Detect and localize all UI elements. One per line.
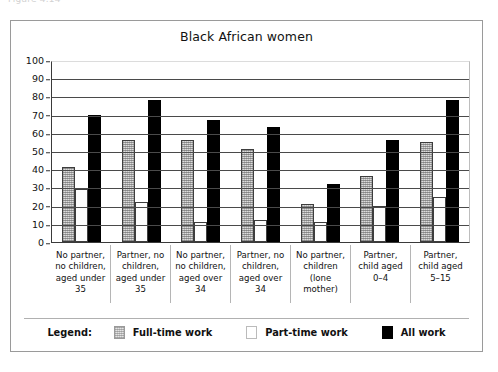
x-axis-category-label-line: aged over: [232, 273, 289, 284]
legend-swatch-all-work: [382, 326, 393, 339]
legend-label-all-work: All work: [401, 327, 446, 338]
x-axis-category-label-line: 34: [232, 284, 289, 295]
y-axis-tick-60: 60: [32, 129, 44, 139]
legend-item-all-work: All work: [382, 326, 446, 339]
legend-divider: [24, 318, 469, 319]
y-axis-tick-30: 30: [32, 184, 44, 194]
bar-part[interactable]: [254, 220, 267, 242]
x-axis-category-label: Partner,child aged0–4: [350, 245, 410, 303]
bar-part[interactable]: [373, 206, 386, 242]
x-axis-category-label-line: children: [292, 261, 349, 272]
y-axis-tick-20: 20: [32, 202, 44, 212]
legend-item-full-time: Full-time work: [114, 326, 212, 339]
legend-item-part-time: Part-time work: [246, 326, 348, 339]
x-axis-category-label-line: no children,: [52, 261, 109, 272]
x-axis-category-label-line: children,: [112, 261, 169, 272]
y-axis-tick-80: 80: [32, 93, 44, 103]
chart-title: Black African women: [11, 29, 482, 44]
x-axis-category-label-line: 35: [112, 284, 169, 295]
x-axis-category-label-line: child aged: [352, 261, 409, 272]
bar-full[interactable]: [181, 140, 194, 242]
y-axis-tick-100: 100: [26, 56, 44, 66]
bar-part[interactable]: [75, 189, 88, 242]
x-axis-category-label-line: No partner,: [172, 250, 229, 261]
gridline-40: [52, 170, 469, 171]
x-axis-category-label-line: children,: [232, 261, 289, 272]
figure-caption-fragment: Figure 4.14: [8, 0, 61, 4]
x-axis-category-label-line: no children,: [172, 261, 229, 272]
gridline-90: [52, 79, 469, 80]
gridline-50: [52, 152, 469, 153]
gridline-100: [52, 61, 469, 62]
legend-swatch-part-time: [246, 326, 257, 339]
x-axis-category-label: No partner,no children,aged under35: [51, 245, 110, 303]
bar-full[interactable]: [360, 176, 373, 242]
plot-area: [51, 61, 470, 243]
y-axis-tick-0: 0: [38, 238, 44, 248]
x-axis-category-label-line: Partner, no: [232, 250, 289, 261]
legend-swatch-full-time: [114, 326, 125, 339]
bar-all[interactable]: [207, 120, 220, 242]
x-axis-category-label-line: 34: [172, 284, 229, 295]
x-axis-category-label-line: 35: [52, 284, 109, 295]
x-axis-category-label-line: No partner,: [292, 250, 349, 261]
bar-all[interactable]: [327, 184, 340, 242]
bar-part[interactable]: [135, 202, 148, 242]
x-axis-category-label-line: mother): [292, 284, 349, 295]
bar-full[interactable]: [241, 149, 254, 242]
bar-full[interactable]: [420, 142, 433, 242]
x-axis-category-label-line: aged under: [52, 273, 109, 284]
y-axis: 0102030405060708090100: [24, 61, 50, 243]
x-axis-category-label: Partner, nochildren,aged over34: [230, 245, 290, 303]
x-axis-category-labels: No partner,no children,aged under35Partn…: [51, 245, 470, 303]
bar-full[interactable]: [62, 167, 75, 242]
x-axis-category-label-line: No partner,: [52, 250, 109, 261]
gridline-60: [52, 134, 469, 135]
x-axis-category-label-line: 0–4: [352, 273, 409, 284]
legend-title: Legend:: [47, 327, 91, 338]
x-axis-category-label-line: (lone: [292, 273, 349, 284]
gridline-10: [52, 225, 469, 226]
figure-frame: Black African women 01020304050607080901…: [10, 20, 483, 352]
x-axis-category-label-line: Partner,: [352, 250, 409, 261]
x-axis-category-label-line: aged under: [112, 273, 169, 284]
x-axis-category-label-line: Partner,: [412, 250, 469, 261]
x-axis-category-label-line: 5–15: [412, 273, 469, 284]
bar-full[interactable]: [122, 140, 135, 242]
y-axis-tick-40: 40: [32, 165, 44, 175]
plot-wrap: 0102030405060708090100 No partner,no chi…: [24, 61, 470, 276]
x-axis-category-label-line: child aged: [412, 261, 469, 272]
x-axis-category-label-line: Partner, no: [112, 250, 169, 261]
x-axis-category-label: No partner,no children,aged over34: [170, 245, 230, 303]
y-axis-tick-10: 10: [32, 220, 44, 230]
gridline-70: [52, 116, 469, 117]
gridline-20: [52, 207, 469, 208]
gridline-30: [52, 188, 469, 189]
bar-all[interactable]: [386, 140, 399, 242]
x-axis-category-label: Partner, nochildren,aged under35: [110, 245, 170, 303]
y-axis-tick-50: 50: [32, 147, 44, 157]
gridline-80: [52, 97, 469, 98]
legend-label-part-time: Part-time work: [265, 327, 348, 338]
x-axis-category-label: No partner,children(lonemother): [290, 245, 350, 303]
bar-full[interactable]: [301, 204, 314, 242]
legend-label-full-time: Full-time work: [133, 327, 212, 338]
y-axis-tick-70: 70: [32, 111, 44, 121]
x-axis-category-label-line: aged over: [172, 273, 229, 284]
x-axis-category-label: Partner,child aged5–15: [410, 245, 470, 303]
y-axis-tick-90: 90: [32, 74, 44, 84]
legend: Legend: Full-time work Part-time work Al…: [11, 326, 482, 339]
bar-part[interactable]: [433, 197, 446, 243]
